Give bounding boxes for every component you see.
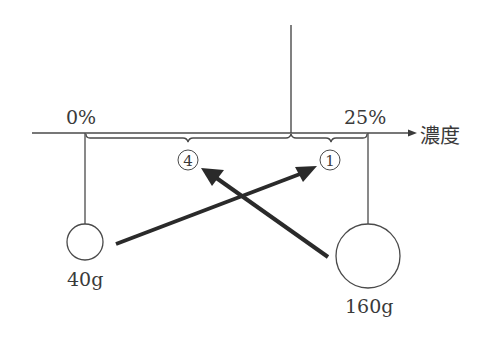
- arrow-160g-to-4: [201, 168, 328, 257]
- tick-label-25: 25%: [344, 106, 386, 128]
- marker-4-label: 4: [183, 152, 193, 170]
- axis-label: 濃度: [420, 120, 460, 149]
- concentration-axis: [32, 130, 417, 137]
- left-brace: [86, 134, 291, 142]
- marker-1-label: 1: [325, 152, 335, 170]
- axis-arrow-icon: [408, 130, 417, 137]
- weight-160g-label: 160g: [345, 295, 393, 317]
- weight-40g-circle: [67, 224, 103, 260]
- tick-label-0: 0%: [66, 106, 96, 128]
- weight-160g-circle: [336, 224, 400, 288]
- right-brace: [291, 134, 367, 142]
- weight-40g-label: 40g: [67, 268, 103, 290]
